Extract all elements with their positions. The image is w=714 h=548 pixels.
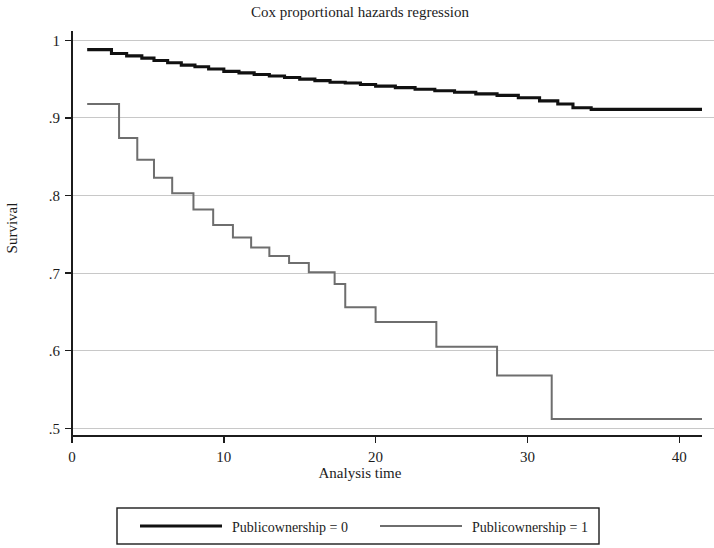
y-tick-label: .6 bbox=[49, 343, 61, 359]
y-axis-title: Survival bbox=[4, 203, 20, 254]
legend-label-0: Publicownership = 0 bbox=[232, 520, 348, 535]
y-tick-label: 1 bbox=[53, 33, 61, 49]
x-axis-title: Analysis time bbox=[319, 465, 402, 481]
x-tick-label: 20 bbox=[368, 449, 383, 465]
chart-legend: Publicownership = 0Publicownership = 1 bbox=[117, 508, 599, 544]
survival-curve-chart: Cox proportional hazards regression .5.6… bbox=[0, 0, 714, 548]
y-tick-label: .7 bbox=[49, 266, 61, 282]
x-tick-label: 30 bbox=[520, 449, 535, 465]
chart-title: Cox proportional hazards regression bbox=[251, 4, 469, 20]
y-tick-label: .5 bbox=[49, 421, 60, 437]
legend-label-1: Publicownership = 1 bbox=[472, 520, 588, 535]
y-tick-label: .9 bbox=[49, 110, 60, 126]
x-tick-label: 0 bbox=[68, 449, 76, 465]
x-tick-label: 40 bbox=[672, 449, 687, 465]
x-tick-label: 10 bbox=[216, 449, 231, 465]
y-tick-label: .8 bbox=[49, 188, 60, 204]
